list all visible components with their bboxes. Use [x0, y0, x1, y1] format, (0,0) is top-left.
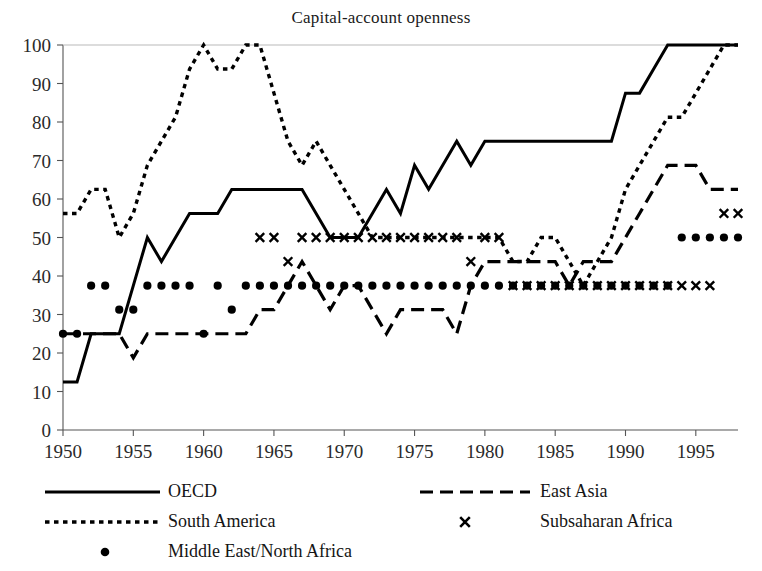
legend-swatch-middle-east-north-africa: [101, 548, 110, 557]
marker-dot: [129, 306, 137, 314]
marker-dot: [284, 282, 292, 290]
marker-dot: [115, 306, 123, 314]
marker-dot: [101, 282, 109, 290]
x-tick-label: 1985: [536, 441, 574, 462]
marker-x: [734, 209, 743, 218]
marker-x: [706, 281, 715, 290]
legend-swatch-subsaharan-africa: [460, 517, 470, 527]
marker-x: [284, 257, 293, 266]
marker-dot: [706, 233, 714, 241]
x-tick-label: 1960: [185, 441, 223, 462]
marker-dot: [593, 282, 601, 290]
marker-dot: [73, 330, 81, 338]
marker-dot: [410, 282, 418, 290]
y-tick-label: 60: [32, 189, 51, 210]
x-tick-label: 1950: [44, 441, 82, 462]
legend-label-east-asia: East Asia: [540, 481, 608, 501]
y-tick-label: 40: [32, 266, 51, 287]
marker-dot: [537, 282, 545, 290]
x-tick-label: 1980: [466, 441, 504, 462]
x-tick-label: 1965: [255, 441, 293, 462]
marker-dot: [495, 282, 503, 290]
x-tick-label: 1970: [325, 441, 363, 462]
y-tick-label: 20: [32, 343, 51, 364]
marker-dot: [326, 282, 334, 290]
legend-label-subsaharan-africa: Subsaharan Africa: [540, 511, 672, 531]
y-tick-label: 10: [32, 382, 51, 403]
marker-x: [720, 209, 729, 218]
marker-dot: [692, 233, 700, 241]
marker-x: [312, 233, 321, 242]
marker-dot: [579, 282, 587, 290]
chart-canvas: 0102030405060708090100195019551960196519…: [0, 0, 762, 571]
series-line-east-asia: [63, 165, 738, 358]
legend-label-south-america: South America: [168, 511, 275, 531]
marker-dot: [664, 282, 672, 290]
marker-dot: [425, 282, 433, 290]
marker-dot: [157, 282, 165, 290]
marker-x: [467, 257, 476, 266]
marker-dot: [523, 282, 531, 290]
series-line-oecd: [63, 45, 738, 382]
y-tick-label: 70: [32, 151, 51, 172]
marker-dot: [270, 282, 278, 290]
marker-dot: [453, 282, 461, 290]
marker-dot: [340, 282, 348, 290]
marker-dot: [143, 282, 151, 290]
chart-figure: Capital-account openness 010203040506070…: [0, 0, 762, 571]
marker-dot: [298, 282, 306, 290]
marker-dot: [87, 282, 95, 290]
chart-title: Capital-account openness: [0, 8, 762, 28]
legend-label-middle-east-north-africa: Middle East/North Africa: [168, 541, 352, 561]
marker-dot: [720, 233, 728, 241]
y-tick-label: 90: [32, 74, 51, 95]
marker-dot: [551, 282, 559, 290]
y-tick-label: 30: [32, 305, 51, 326]
y-tick-label: 80: [32, 112, 51, 133]
marker-dot: [256, 282, 264, 290]
marker-x: [298, 233, 307, 242]
marker-dot: [621, 282, 629, 290]
marker-dot: [439, 282, 447, 290]
marker-dot: [396, 282, 404, 290]
x-tick-label: 1955: [114, 441, 152, 462]
y-tick-label: 50: [32, 228, 51, 249]
marker-dot: [185, 282, 193, 290]
marker-dot: [467, 282, 475, 290]
marker-x: [438, 233, 447, 242]
marker-x: [692, 281, 701, 290]
marker-dot: [678, 233, 686, 241]
marker-x: [270, 233, 279, 242]
x-tick-label: 1975: [396, 441, 434, 462]
marker-dot: [509, 282, 517, 290]
marker-x: [677, 281, 686, 290]
marker-dot: [312, 282, 320, 290]
marker-dot: [200, 330, 208, 338]
marker-dot: [354, 282, 362, 290]
y-tick-label: 100: [23, 35, 52, 56]
marker-dot: [382, 282, 390, 290]
y-tick-label: 0: [42, 420, 52, 441]
marker-dot: [650, 282, 658, 290]
marker-x: [256, 233, 265, 242]
marker-dot: [59, 330, 67, 338]
marker-dot: [607, 282, 615, 290]
marker-dot: [228, 306, 236, 314]
marker-dot: [214, 282, 222, 290]
marker-dot: [368, 282, 376, 290]
x-tick-label: 1990: [607, 441, 645, 462]
marker-dot: [481, 282, 489, 290]
marker-dot: [565, 282, 573, 290]
marker-dot: [171, 282, 179, 290]
series-line-south-america: [63, 45, 738, 286]
marker-dot: [242, 282, 250, 290]
legend-label-oecd: OECD: [168, 481, 217, 501]
marker-dot: [635, 282, 643, 290]
x-tick-label: 1995: [677, 441, 715, 462]
marker-dot: [734, 233, 742, 241]
